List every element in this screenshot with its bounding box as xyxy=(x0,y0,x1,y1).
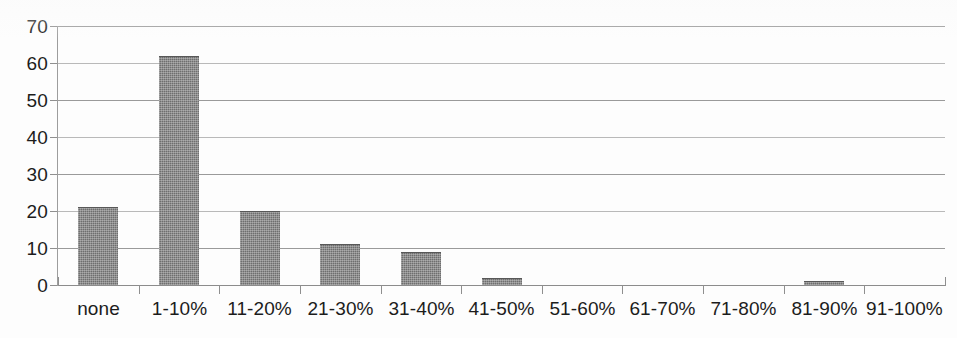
x-tick-label-71-80%: 71-80% xyxy=(703,299,784,318)
x-tick-label-1-10%: 1-10% xyxy=(139,299,220,318)
bar-21-30% xyxy=(320,244,360,285)
x-tick-mark-3 xyxy=(300,285,301,294)
x-tick-label-21-30%: 21-30% xyxy=(300,299,381,318)
y-tick-label-30: 30 xyxy=(4,165,48,184)
y-tick-mark-0 xyxy=(50,285,57,286)
bar-31-40% xyxy=(401,252,441,285)
x-tick-label-31-40%: 31-40% xyxy=(381,299,462,318)
plot-area xyxy=(58,26,945,285)
y-tick-label-0: 0 xyxy=(4,276,48,295)
x-tick-label-41-50%: 41-50% xyxy=(461,299,542,318)
x-tick-mark-1 xyxy=(139,285,140,294)
x-tick-label-61-70%: 61-70% xyxy=(622,299,703,318)
y-tick-label-40: 40 xyxy=(4,128,48,147)
x-tick-label-11-20%: 11-20% xyxy=(219,299,300,318)
bar-41-50% xyxy=(482,278,522,285)
bar-none xyxy=(78,207,118,285)
y-tick-mark-50 xyxy=(50,100,57,101)
y-tick-label-60: 60 xyxy=(4,54,48,73)
x-tick-label-91-100%: 91-100% xyxy=(864,299,945,318)
bar-81-90% xyxy=(804,281,844,285)
y-tick-mark-70 xyxy=(50,26,57,27)
bar-chart: 010203040506070 none1-10%11-20%21-30%31-… xyxy=(0,0,957,338)
x-tick-mark-6 xyxy=(542,285,543,294)
y-tick-mark-60 xyxy=(50,63,57,64)
x-tick-mark-7 xyxy=(622,285,623,294)
x-tick-label-81-90%: 81-90% xyxy=(784,299,865,318)
x-tick-mark-4 xyxy=(381,285,382,294)
bar-1-10% xyxy=(159,56,199,285)
y-tick-label-70: 70 xyxy=(4,17,48,36)
y-tick-label-50: 50 xyxy=(4,91,48,110)
y-tick-mark-30 xyxy=(50,174,57,175)
x-tick-label-none: none xyxy=(58,299,139,318)
bar-11-20% xyxy=(240,211,280,285)
x-tick-mark-11 xyxy=(945,277,946,286)
x-tick-mark-8 xyxy=(703,285,704,294)
y-axis-labels: 010203040506070 xyxy=(0,0,48,338)
y-tick-label-20: 20 xyxy=(4,202,48,221)
y-tick-mark-10 xyxy=(50,248,57,249)
y-tick-label-10: 10 xyxy=(4,239,48,258)
x-tick-label-51-60%: 51-60% xyxy=(542,299,623,318)
y-tick-mark-40 xyxy=(50,137,57,138)
x-tick-mark-2 xyxy=(219,285,220,294)
x-tick-mark-5 xyxy=(461,285,462,294)
gridline-0 xyxy=(58,285,945,286)
gridline-70 xyxy=(58,26,945,27)
y-tick-mark-20 xyxy=(50,211,57,212)
x-tick-mark-10 xyxy=(864,285,865,294)
x-tick-mark-9 xyxy=(784,285,785,294)
x-tick-mark-0 xyxy=(58,277,59,286)
